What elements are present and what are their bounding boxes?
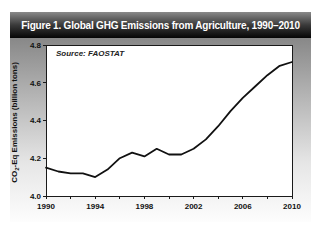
y-axis-title: CO2-Eq Emissions (billion tons)	[10, 48, 21, 198]
y-tick-label: 4.8	[30, 41, 42, 50]
y-axis-title-post: -Eq Emissions (billion tons)	[10, 62, 19, 167]
source-note: Source: FAOSTAT	[56, 49, 124, 58]
x-tick-label: 2010	[283, 202, 301, 211]
x-tick-label: 1994	[86, 202, 104, 211]
y-tick-label: 4.0	[30, 192, 42, 201]
chart-area: 4.04.24.44.64.8199019941998200220062010 …	[10, 38, 311, 222]
x-tick-label: 2006	[234, 202, 252, 211]
y-tick-label: 4.4	[30, 116, 42, 125]
figure-title-bar: Figure 1. Global GHG Emissions from Agri…	[10, 12, 311, 38]
y-tick-label: 4.2	[30, 154, 42, 163]
x-tick-label: 2002	[185, 202, 203, 211]
chart-canvas: 4.04.24.44.64.8199019941998200220062010	[10, 38, 311, 222]
figure-title: Figure 1. Global GHG Emissions from Agri…	[21, 20, 300, 31]
y-axis-title-sub: 2	[14, 168, 20, 171]
figure-card: Figure 1. Global GHG Emissions from Agri…	[10, 12, 311, 222]
y-tick-label: 4.6	[30, 79, 42, 88]
x-tick-label: 1998	[136, 202, 154, 211]
x-tick-label: 1990	[37, 202, 55, 211]
y-axis-title-pre: CO	[10, 171, 19, 183]
